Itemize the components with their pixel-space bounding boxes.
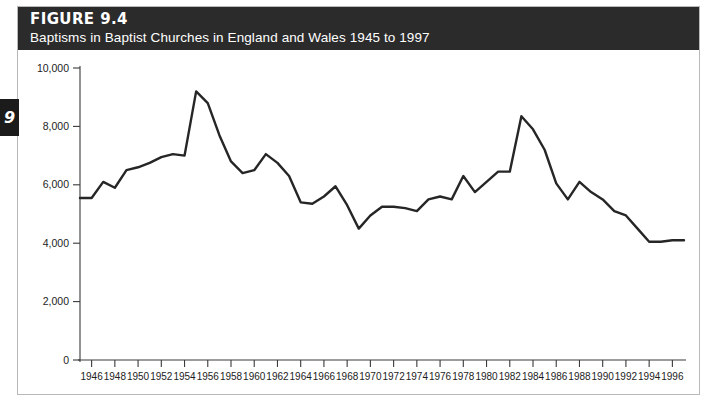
x-tick-label: 1990 [592,371,615,382]
x-tick-label: 1980 [475,371,498,382]
x-tick-label: 1970 [359,371,382,382]
x-tick-label: 1976 [429,371,452,382]
figure-title-banner: FIGURE 9.4 Baptisms in Baptist Churches … [18,7,699,50]
y-tick-label: 6,000 [43,178,69,190]
chapter-tab: 9 [0,99,19,136]
y-tick-label: 2,000 [43,295,69,307]
figure-caption: Baptisms in Baptist Churches in England … [30,28,699,47]
figure-page: FIGURE 9.4 Baptisms in Baptist Churches … [0,0,717,414]
x-tick-label: 1952 [150,371,173,382]
x-tick-label: 1958 [220,371,243,382]
x-tick-label: 1962 [266,371,289,382]
x-tick-label: 1960 [243,371,266,382]
x-tick-label: 1966 [313,371,336,382]
y-tick-label: 4,000 [43,237,69,249]
y-tick-label: 10,000 [37,62,69,74]
baptisms-line-series [80,91,684,241]
x-tick-label: 1988 [568,371,591,382]
x-tick-label: 1996 [661,371,684,382]
x-tick-label: 1978 [452,371,475,382]
y-tick-label: 0 [63,354,69,366]
line-chart: 02,0004,0006,0008,00010,000 194619481950… [18,50,699,394]
chart-svg: 02,0004,0006,0008,00010,000 194619481950… [18,50,699,394]
x-tick-label: 1994 [638,371,661,382]
x-tick-label: 1956 [197,371,220,382]
x-tick-label: 1974 [406,371,429,382]
x-tick-label: 1972 [382,371,405,382]
x-tick-label: 1946 [80,371,103,382]
figure-number: FIGURE 9.4 [30,11,699,28]
x-tick-label: 1964 [290,371,313,382]
x-tick-label: 1986 [545,371,568,382]
x-tick-label: 1950 [127,371,150,382]
x-tick-label: 1982 [499,371,522,382]
y-axis: 02,0004,0006,0008,00010,000 [37,62,80,366]
x-axis: 1946194819501952195419561958196019621964… [78,360,686,382]
x-tick-label: 1948 [104,371,127,382]
x-tick-label: 1968 [336,371,359,382]
y-tick-label: 8,000 [43,120,69,132]
x-tick-label: 1984 [522,371,545,382]
x-tick-label: 1992 [615,371,638,382]
x-tick-label: 1954 [173,371,196,382]
